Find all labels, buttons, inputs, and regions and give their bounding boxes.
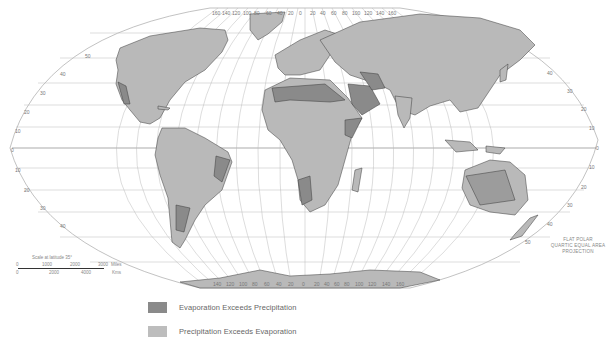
svg-text:120: 120: [226, 281, 235, 287]
svg-text:10: 10: [15, 128, 21, 134]
svg-text:40: 40: [60, 223, 66, 229]
svg-text:80: 80: [342, 10, 348, 16]
svg-text:140: 140: [213, 281, 222, 287]
svg-text:160: 160: [388, 10, 397, 16]
svg-text:10: 10: [589, 125, 595, 131]
scale-km-tick: 0: [16, 270, 19, 275]
legend-label: Precipitation Exceeds Evaporation: [179, 327, 297, 336]
svg-text:160: 160: [212, 10, 221, 16]
svg-text:140: 140: [376, 10, 385, 16]
svg-text:50: 50: [85, 53, 91, 59]
legend-swatch-light: [148, 326, 167, 337]
svg-text:100: 100: [355, 281, 364, 287]
svg-text:40: 40: [547, 221, 553, 227]
svg-text:160: 160: [396, 281, 405, 287]
svg-text:20: 20: [24, 187, 30, 193]
projection-label: FLAT POLAR QUARTIC EQUAL AREA PROJECTION: [548, 237, 608, 255]
svg-text:10: 10: [589, 164, 595, 170]
svg-text:120: 120: [364, 10, 373, 16]
scale-miles-unit: Miles: [111, 262, 122, 267]
svg-text:100: 100: [243, 10, 252, 16]
svg-text:20: 20: [314, 281, 320, 287]
legend-item-precipitation: Precipitation Exceeds Evaporation: [148, 325, 297, 338]
svg-text:40: 40: [60, 71, 66, 77]
svg-text:20: 20: [24, 109, 30, 115]
scale-km-tick: 4000: [81, 270, 91, 275]
scale-line: [18, 268, 104, 269]
svg-text:80: 80: [252, 281, 258, 287]
legend-label: Evaporation Exceeds Precipitation: [179, 303, 297, 312]
legend: Evaporation Exceeds Precipitation Precip…: [148, 301, 297, 339]
scale-title: Scale at latitude 35°: [32, 255, 72, 260]
svg-text:20: 20: [288, 281, 294, 287]
world-map: 50 40 30 20 10 0 10 20 30 40 40 30 20 10…: [0, 0, 609, 290]
svg-text:0: 0: [302, 281, 305, 287]
legend-item-evaporation: Evaporation Exceeds Precipitation: [148, 301, 297, 314]
svg-text:10: 10: [15, 167, 21, 173]
svg-text:40: 40: [320, 10, 326, 16]
svg-text:50: 50: [525, 239, 531, 245]
svg-text:140: 140: [382, 281, 391, 287]
svg-text:100: 100: [239, 281, 248, 287]
scale-bar: Scale at latitude 35° 0 1000 2000 3000 M…: [14, 255, 124, 280]
svg-text:20: 20: [581, 184, 587, 190]
svg-text:0: 0: [11, 147, 14, 153]
projection-label-line: PROJECTION: [548, 249, 608, 255]
scale-miles-tick: 2000: [70, 262, 80, 267]
svg-text:60: 60: [266, 10, 272, 16]
svg-text:30: 30: [567, 88, 573, 94]
svg-text:40: 40: [277, 10, 283, 16]
svg-text:40: 40: [547, 70, 553, 76]
svg-text:80: 80: [254, 10, 260, 16]
legend-swatch-dark: [148, 302, 167, 313]
svg-text:20: 20: [310, 10, 316, 16]
svg-text:120: 120: [232, 10, 241, 16]
svg-text:120: 120: [368, 281, 377, 287]
svg-text:20: 20: [581, 106, 587, 112]
svg-text:40: 40: [324, 281, 330, 287]
svg-text:30: 30: [40, 90, 46, 96]
svg-text:60: 60: [334, 281, 340, 287]
scale-miles-tick: 0: [16, 262, 19, 267]
svg-text:30: 30: [567, 202, 573, 208]
svg-text:60: 60: [331, 10, 337, 16]
svg-text:40: 40: [276, 281, 282, 287]
svg-text:80: 80: [344, 281, 350, 287]
scale-miles-tick: 3000: [98, 262, 108, 267]
svg-text:0: 0: [596, 145, 599, 151]
svg-text:30: 30: [40, 205, 46, 211]
svg-text:60: 60: [264, 281, 270, 287]
scale-km-tick: 2000: [49, 270, 59, 275]
svg-text:100: 100: [352, 10, 361, 16]
svg-text:140: 140: [222, 10, 231, 16]
svg-text:0: 0: [299, 10, 302, 16]
scale-miles-tick: 1000: [42, 262, 52, 267]
scale-km-unit: Kms: [112, 270, 121, 275]
svg-text:20: 20: [288, 10, 294, 16]
